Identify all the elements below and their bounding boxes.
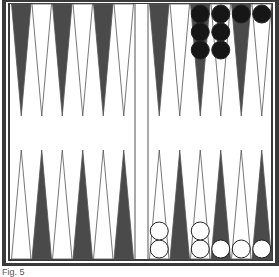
white-checker[interactable] <box>150 222 168 240</box>
figure-caption: Fig. 5 <box>2 267 25 277</box>
white-checker[interactable] <box>150 240 168 258</box>
backgammon-board <box>0 0 279 277</box>
black-checker[interactable] <box>212 23 230 41</box>
board-surface <box>10 4 271 259</box>
black-checker[interactable] <box>191 41 209 59</box>
white-checker[interactable] <box>232 240 250 258</box>
white-checker[interactable] <box>253 240 271 258</box>
black-checker[interactable] <box>212 41 230 59</box>
black-checker[interactable] <box>191 23 209 41</box>
white-checker[interactable] <box>212 240 230 258</box>
black-checker[interactable] <box>191 5 209 23</box>
black-checker[interactable] <box>232 5 250 23</box>
white-checker[interactable] <box>191 222 209 240</box>
black-checker[interactable] <box>253 5 271 23</box>
white-checker[interactable] <box>191 240 209 258</box>
black-checker[interactable] <box>212 5 230 23</box>
